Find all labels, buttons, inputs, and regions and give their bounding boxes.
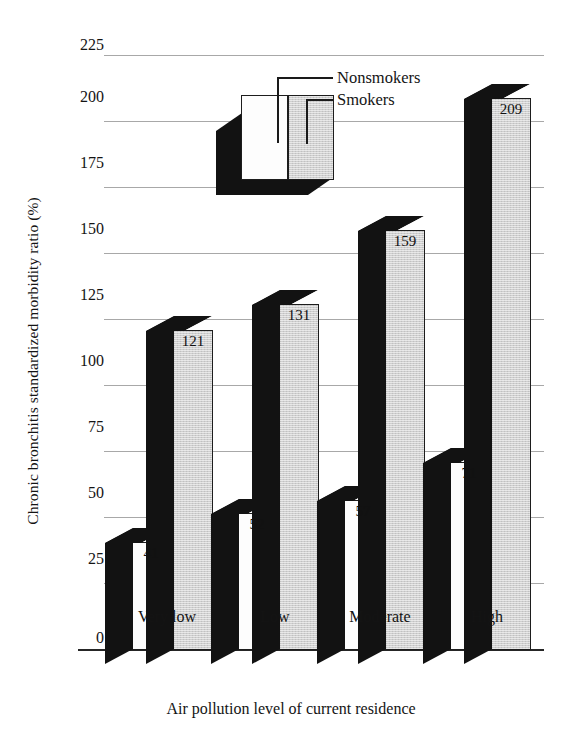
x-axis-title: Air pollution level of current residence	[0, 700, 582, 718]
x-tick-very-low: Very low	[107, 608, 227, 626]
chart-figure: Chronic bronchitis standardized morbidit…	[0, 0, 582, 731]
y-tick-0: 0	[58, 629, 104, 647]
bar-front-face	[386, 231, 424, 649]
bar-value-label: 159	[386, 234, 424, 250]
gridline-225	[104, 55, 544, 56]
bar-top-face	[358, 216, 424, 231]
y-tick-125: 125	[58, 286, 104, 304]
bar-side-face	[105, 528, 133, 664]
x-tick-low: Low	[215, 608, 335, 626]
bar-front-face	[492, 99, 530, 649]
y-tick-50: 50	[58, 484, 104, 502]
y-tick-225: 225	[58, 36, 104, 54]
x-tick-high: High	[427, 608, 547, 626]
bar-value-label: 131	[280, 308, 318, 324]
bar-top-face	[252, 290, 318, 305]
bar-value-label: 209	[492, 102, 530, 118]
y-tick-200: 200	[58, 88, 104, 106]
y-tick-25: 25	[58, 550, 104, 568]
bar-front-face	[174, 331, 212, 649]
bar-side-face	[464, 84, 492, 664]
y-tick-75: 75	[58, 418, 104, 436]
bar-value-label: 71	[451, 466, 487, 482]
bar-value-label: 52	[239, 517, 275, 533]
y-tick-175: 175	[58, 154, 104, 172]
bar-front-face	[280, 305, 318, 649]
bar-side-face	[358, 216, 386, 664]
bar-value-label: 41	[133, 546, 169, 562]
bar-low-smokers[interactable]: 131	[279, 304, 319, 650]
bar-high-smokers[interactable]: 209	[491, 98, 531, 650]
bar-top-face	[464, 84, 530, 99]
bar-side-face	[211, 499, 239, 664]
bar-side-face	[423, 448, 451, 664]
bar-very-low-smokers[interactable]: 121	[173, 330, 213, 650]
x-tick-moderate: Moderate	[320, 608, 440, 626]
y-axis-title: Chronic bronchitis standardized morbidit…	[24, 81, 42, 641]
plot-area: 41 121 52 131 57	[104, 50, 544, 650]
y-tick-100: 100	[58, 352, 104, 370]
bar-side-face	[317, 486, 345, 664]
bar-value-label: 57	[345, 504, 381, 520]
bar-value-label: 121	[174, 334, 212, 350]
y-tick-150: 150	[58, 220, 104, 238]
bar-moderate-smokers[interactable]: 159	[385, 230, 425, 650]
